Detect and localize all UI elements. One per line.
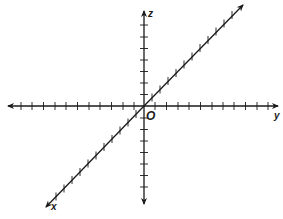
z-axis-label: z (147, 8, 153, 19)
coordinate-diagram: z y x O (0, 0, 283, 219)
origin-label: O (146, 109, 156, 123)
x-axis-label: x (50, 201, 57, 212)
y-axis-label: y (273, 110, 280, 121)
x-axis-negative (144, 5, 243, 106)
x-axis (46, 106, 144, 207)
